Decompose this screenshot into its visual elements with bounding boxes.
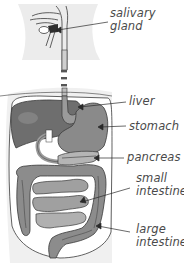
label-pancreas: pancreas: [127, 151, 181, 164]
duct-white: [46, 130, 52, 142]
label-liver: liver: [129, 95, 155, 108]
label-large-intestine: large intestine: [136, 223, 184, 249]
tongue: [39, 27, 49, 34]
label-line: intestine: [136, 185, 184, 198]
liver-highlight: [18, 112, 38, 124]
small-intestine-shape: [33, 179, 89, 228]
label-line: gland: [110, 20, 156, 33]
label-line: intestine: [136, 236, 184, 249]
label-line: stomach: [129, 120, 179, 133]
label-line: pancreas: [127, 151, 181, 164]
label-stomach: stomach: [129, 120, 179, 133]
label-line: liver: [129, 95, 155, 108]
esophagus-upper: [62, 50, 67, 70]
label-salivary-gland: salivary gland: [110, 7, 156, 33]
esophagus-dashes: [61, 70, 67, 86]
label-small-intestine: small intestine: [136, 172, 184, 198]
